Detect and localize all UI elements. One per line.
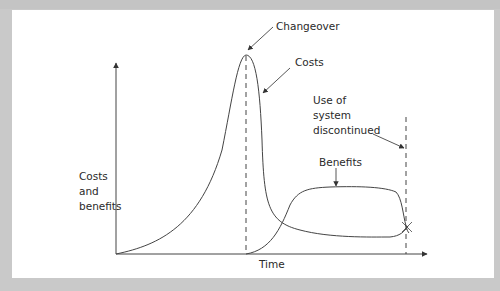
benefits-curve <box>246 187 409 254</box>
label-y-1: Costs <box>79 170 108 182</box>
label-discontinued-3: discontinued <box>313 124 380 136</box>
label-y-2: and <box>79 185 99 197</box>
label-benefits: Benefits <box>319 156 362 168</box>
costs-curve <box>116 55 408 254</box>
changeover-arrow <box>248 27 273 50</box>
label-discontinued-1: Use of <box>313 94 346 106</box>
discontinued-arrow <box>373 134 404 148</box>
label-changeover: Changeover <box>276 20 340 32</box>
label-costs: Costs <box>295 56 324 68</box>
label-discontinued-2: system <box>313 109 351 121</box>
label-y-3: benefits <box>79 200 121 212</box>
costs-arrow <box>263 68 290 93</box>
label-x-time: Time <box>258 258 285 270</box>
costs-benefits-diagram: Changeover Costs Use of system discontin… <box>0 0 500 291</box>
